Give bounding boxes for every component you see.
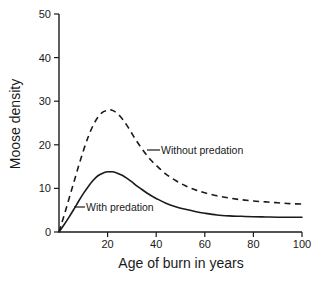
series-line-without-predation xyxy=(59,110,302,232)
y-axis-tick-label: 10 xyxy=(39,182,51,194)
y-axis-tick-label: 0 xyxy=(45,226,51,238)
chart-figure: 01020304050 20406080100 Without predatio… xyxy=(0,0,322,282)
chart-axes xyxy=(59,14,302,232)
x-axis-tick-labels: 20406080100 xyxy=(101,238,311,250)
y-axis-ticks xyxy=(54,14,59,232)
y-axis-tick-label: 30 xyxy=(39,95,51,107)
y-axis-tick-labels: 01020304050 xyxy=(39,8,51,238)
x-axis-title: Age of burn in years xyxy=(118,255,243,271)
series-label-without-predation: Without predation xyxy=(161,144,243,156)
x-axis-tick-label: 40 xyxy=(150,238,162,250)
chart-plot-area: 01020304050 20406080100 Without predatio… xyxy=(0,0,322,282)
series-label-with-predation: With predation xyxy=(86,201,154,213)
y-axis-tick-label: 20 xyxy=(39,139,51,151)
x-axis-tick-label: 80 xyxy=(247,238,259,250)
y-axis-title: Moose density xyxy=(7,79,23,169)
x-axis-tick-label: 100 xyxy=(293,238,311,250)
x-axis-tick-label: 60 xyxy=(199,238,211,250)
y-axis-tick-label: 50 xyxy=(39,8,51,20)
y-axis-tick-label: 40 xyxy=(39,52,51,64)
x-axis-tick-label: 20 xyxy=(101,238,113,250)
x-axis-ticks xyxy=(108,232,302,237)
